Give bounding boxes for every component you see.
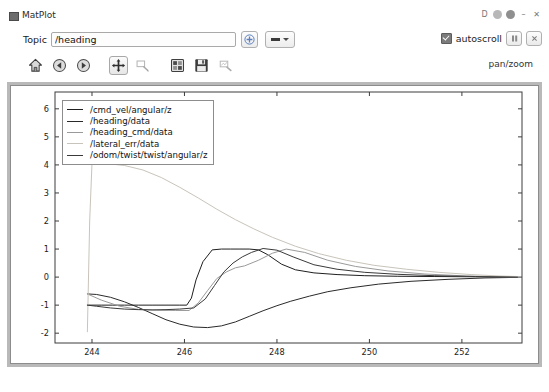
zoom-button[interactable] [133,56,152,75]
y-tick-label: -2 [29,328,49,338]
legend-color-swatch [67,109,83,110]
x-tick-label: 250 [354,347,384,357]
legend-color-swatch [67,155,83,156]
close-button[interactable]: ✕ [532,10,541,19]
pan-move-icon [111,58,126,73]
matplotlib-nav-toolbar: pan/zoom [0,56,549,78]
home-icon [28,58,43,73]
save-floppy-icon [194,58,209,73]
autoscroll-label: autoscroll [456,33,502,44]
line-style-dropdown[interactable] [265,31,295,48]
window-controls: D – ✕ [480,10,541,19]
pan-button[interactable] [109,56,128,75]
edit-curves-icon [218,58,233,73]
legend-item[interactable]: /heading_cmd/data [67,127,207,138]
toolbar-mode-label: pan/zoom [489,59,533,69]
y-tick-label: 0 [29,272,49,282]
x-tick-label: 246 [169,347,199,357]
plot-legend[interactable]: /cmd_vel/angular/z/heading/data/heading_… [62,100,214,165]
help-circle-icon[interactable] [506,10,515,19]
forward-button[interactable] [74,56,93,75]
legend-color-swatch [67,121,83,122]
clear-icon [530,34,539,43]
y-tick-label: 6 [29,104,49,114]
chevron-down-icon [283,38,289,41]
window-title: MatPlot [22,10,56,20]
matplot-window: MatPlot D – ✕ Topic autoscroll [0,0,549,392]
plot-canvas-frame[interactable]: /cmd_vel/angular/z/heading/data/heading_… [7,82,542,367]
legend-label: /heading_cmd/data [90,127,173,137]
legend-label: /cmd_vel/angular/z [90,105,172,115]
legend-label: /heading/data [90,116,150,126]
y-tick-label: 2 [29,216,49,226]
zoom-rect-icon [135,58,150,73]
legend-item[interactable]: /lateral_err/data [67,138,207,149]
line-style-swatch [271,38,280,41]
window-titlebar: MatPlot D – ✕ [0,10,549,24]
options-group: autoscroll [441,31,542,46]
topic-input[interactable] [51,32,236,47]
legend-label: /odom/twist/twist/angular/z [90,150,207,160]
plus-circle-icon [244,34,255,45]
legend-item[interactable]: /heading/data [67,115,207,126]
plot-line-2 [87,249,517,310]
matplotlib-figure[interactable]: /cmd_vel/angular/z/heading/data/heading_… [10,85,539,364]
subplots-button[interactable] [168,56,187,75]
app-window-icon [9,12,19,21]
y-tick-label: 1 [29,244,49,254]
circle-icon[interactable] [493,10,502,19]
y-tick-label: 5 [29,132,49,142]
legend-item[interactable]: /cmd_vel/angular/z [67,104,207,115]
minimize-button[interactable]: – [519,10,528,19]
home-button[interactable] [26,56,45,75]
configure-subplots-icon [170,58,185,73]
back-button[interactable] [50,56,69,75]
detach-button[interactable]: D [480,10,489,19]
forward-arrow-icon [76,58,91,73]
y-tick-label: 4 [29,160,49,170]
x-tick-label: 248 [262,347,292,357]
plot-line-0 [87,249,517,305]
x-tick-label: 244 [77,347,107,357]
legend-item[interactable]: /odom/twist/twist/angular/z [67,150,207,161]
y-tick-label: 3 [29,188,49,198]
plot-line-3 [87,164,517,332]
save-button[interactable] [192,56,211,75]
plot-line-1 [87,277,517,327]
back-arrow-icon [52,58,67,73]
window-title-group: MatPlot [9,10,56,20]
legend-color-swatch [67,143,83,144]
edit-curves-button[interactable] [216,56,235,75]
add-topic-button[interactable] [241,31,258,48]
x-tick-label: 252 [447,347,477,357]
legend-color-swatch [67,132,83,133]
pause-icon [510,34,519,43]
topic-label: Topic [23,34,47,45]
pause-button[interactable] [506,31,522,46]
clear-button[interactable] [526,31,542,46]
legend-label: /lateral_err/data [90,139,159,149]
nav-icon-group [26,56,235,75]
y-tick-label: -1 [29,300,49,310]
autoscroll-checkbox[interactable] [441,33,452,44]
